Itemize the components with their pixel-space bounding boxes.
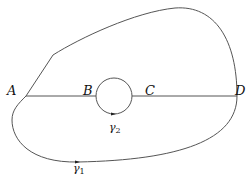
label-d: D (234, 83, 246, 98)
outer-contour-gamma1 (12, 8, 237, 162)
contour-diagram: A B C D γ2 γ1 (0, 0, 246, 176)
label-gamma2: γ2 (109, 121, 121, 135)
label-c: C (145, 83, 155, 98)
gamma2-arrow-icon (111, 113, 116, 116)
label-a: A (6, 83, 16, 98)
label-gamma1: γ1 (73, 162, 85, 176)
inner-circle-gamma2 (96, 78, 132, 114)
label-b: B (82, 83, 93, 98)
